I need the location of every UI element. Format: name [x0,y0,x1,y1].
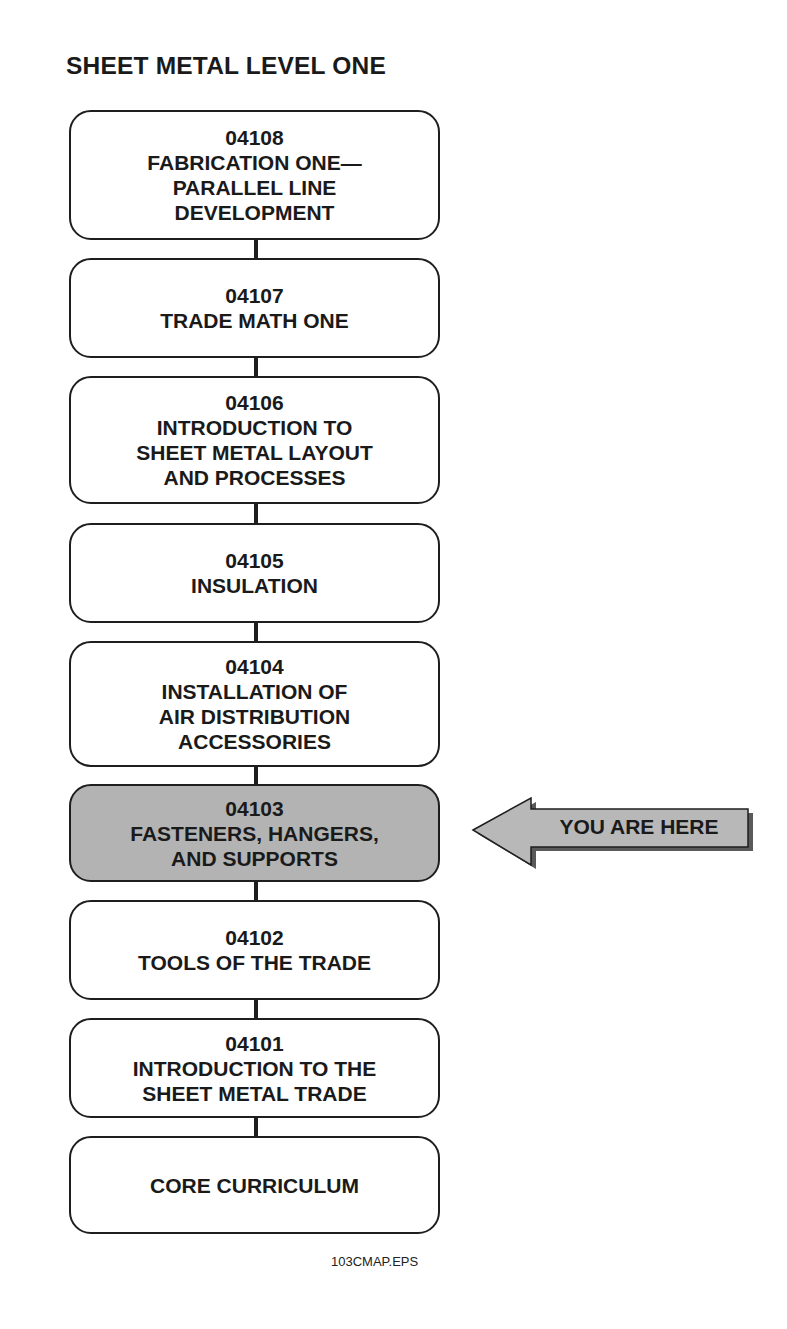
module-title-line: DEVELOPMENT [175,200,335,225]
module-title-line: INTRODUCTION TO THE [133,1056,376,1081]
module-code: 04107 [225,283,283,308]
module-box-04105: 04105 INSULATION [69,523,440,623]
module-code: 04108 [225,125,283,150]
connector [254,621,258,642]
module-box-04108: 04108 FABRICATION ONE— PARALLEL LINE DEV… [69,110,440,240]
connector [254,765,258,785]
module-title-line: PARALLEL LINE [173,175,337,200]
module-title-line: TRADE MATH ONE [160,308,349,333]
module-box-04107: 04107 TRADE MATH ONE [69,258,440,358]
module-code: 04106 [225,390,283,415]
connector [254,998,258,1019]
module-title-line: AND SUPPORTS [171,846,338,871]
module-code: 04102 [225,925,283,950]
module-title-line: TOOLS OF THE TRADE [138,950,371,975]
module-box-04102: 04102 TOOLS OF THE TRADE [69,900,440,1000]
module-title-line: ACCESSORIES [178,729,331,754]
module-title-line: INSTALLATION OF [162,679,348,704]
module-box-04101: 04101 INTRODUCTION TO THE SHEET METAL TR… [69,1018,440,1118]
module-title-line: AND PROCESSES [163,465,345,490]
you-are-here-label: YOU ARE HERE [534,815,744,839]
module-box-04104: 04104 INSTALLATION OF AIR DISTRIBUTION A… [69,641,440,767]
module-title-line: FABRICATION ONE— [147,150,361,175]
module-code: 04105 [225,548,283,573]
connector [254,238,258,259]
connector [254,502,258,524]
module-title-line: INSULATION [191,573,318,598]
module-box-04106: 04106 INTRODUCTION TO SHEET METAL LAYOUT… [69,376,440,504]
connector [254,356,258,377]
module-code: 04103 [225,796,283,821]
module-box-core-curriculum: CORE CURRICULUM [69,1136,440,1234]
module-title-line: SHEET METAL TRADE [142,1081,366,1106]
module-title-line: FASTENERS, HANGERS, [130,821,379,846]
module-title-line: SHEET METAL LAYOUT [136,440,372,465]
module-code: 04104 [225,654,283,679]
module-title-line: CORE CURRICULUM [150,1173,359,1198]
diagram-title: SHEET METAL LEVEL ONE [66,52,446,80]
module-title-line: INTRODUCTION TO [157,415,353,440]
connector [254,1116,258,1137]
module-box-04103-current: 04103 FASTENERS, HANGERS, AND SUPPORTS [69,784,440,882]
connector [254,880,258,901]
figure-caption: 103CMAP.EPS [331,1254,418,1269]
module-title-line: AIR DISTRIBUTION [159,704,350,729]
module-code: 04101 [225,1031,283,1056]
